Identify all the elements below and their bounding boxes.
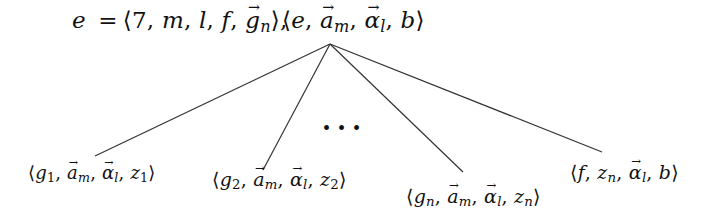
var-g: g xyxy=(35,162,47,183)
var-e: e xyxy=(291,7,305,33)
subscript-2: 2 xyxy=(232,177,241,192)
tree-diagram: e =⟨7, m, l, f, gn⟩, ⟨e, am, αl, b⟩ ... … xyxy=(0,0,702,219)
comma: , xyxy=(585,161,591,183)
var-m: m xyxy=(162,7,184,33)
vector-alpha: α xyxy=(629,163,642,182)
vector-alpha: α xyxy=(290,170,303,189)
comma: , xyxy=(386,7,394,33)
comma: , xyxy=(646,161,652,183)
child-node-n: ⟨gn, am, αl, zn⟩ xyxy=(406,187,541,206)
child-node-1: ⟨g1, am, αl, z1⟩ xyxy=(28,164,156,182)
var-z: z xyxy=(514,185,524,207)
root-node: ⟨e, am, αl, b⟩ xyxy=(282,9,425,32)
equals-sign: = xyxy=(98,7,117,33)
comma: , xyxy=(472,185,478,207)
comma: , xyxy=(241,168,247,190)
comma: , xyxy=(278,168,284,190)
const-7: 7 xyxy=(132,7,147,33)
edge-root-to-child-2 xyxy=(263,44,330,170)
comma: , xyxy=(349,7,357,33)
subscript-n: n xyxy=(260,17,271,36)
langle: ⟨ xyxy=(123,7,132,33)
comma: , xyxy=(206,7,214,33)
vector-a: a xyxy=(320,9,334,32)
rangle: ⟩ xyxy=(416,7,425,33)
vector-a: a xyxy=(447,187,459,206)
comma: , xyxy=(55,162,61,183)
subscript-m: m xyxy=(78,170,90,185)
subscript-m: m xyxy=(265,177,278,192)
comma: , xyxy=(308,168,314,190)
var-f: f xyxy=(222,7,231,33)
comma: , xyxy=(305,7,313,33)
comma: , xyxy=(616,161,622,183)
edge-root-to-child-1 xyxy=(95,44,330,156)
vector-a: a xyxy=(67,164,78,182)
vector-a: a xyxy=(253,170,265,189)
comma: , xyxy=(90,162,96,183)
var-z: z xyxy=(320,168,330,190)
child-node-f: ⟨f, zn, αl, b⟩ xyxy=(570,163,679,182)
var-z: z xyxy=(130,162,140,183)
subscript-1: 1 xyxy=(47,170,55,185)
var-b: b xyxy=(401,7,416,33)
child-node-2: ⟨g2, am, αl, z2⟩ xyxy=(212,170,347,189)
subscript-n: n xyxy=(524,194,533,209)
edge-root-to-child-f xyxy=(330,44,602,152)
comma: , xyxy=(119,162,125,183)
comma: , xyxy=(502,185,508,207)
vector-alpha: α xyxy=(484,187,497,206)
subscript-m: m xyxy=(334,17,349,36)
equation-e-definition: e =⟨7, m, l, f, gn⟩, xyxy=(72,9,287,32)
subscript-n: n xyxy=(426,194,435,209)
langle: ⟨ xyxy=(570,161,578,183)
langle: ⟨ xyxy=(282,7,291,33)
subscript-m: m xyxy=(459,194,472,209)
comma: , xyxy=(435,185,441,207)
ellipsis: ... xyxy=(322,106,367,136)
vector-g: g xyxy=(245,9,260,32)
var-g: g xyxy=(414,185,426,207)
var-g: g xyxy=(220,168,232,190)
var-b: b xyxy=(659,161,671,183)
rangle: ⟩ xyxy=(339,168,347,190)
subscript-2: 2 xyxy=(330,177,339,192)
var-e: e xyxy=(72,7,86,33)
rangle: ⟩ xyxy=(148,162,155,183)
vector-alpha: α xyxy=(364,9,380,32)
langle: ⟨ xyxy=(406,185,414,207)
vector-alpha: α xyxy=(102,164,114,182)
comma: , xyxy=(184,7,192,33)
comma: , xyxy=(230,7,238,33)
var-f: f xyxy=(578,161,585,183)
rangle: ⟩ xyxy=(533,185,541,207)
rangle: ⟩ xyxy=(271,7,280,33)
comma: , xyxy=(147,7,155,33)
rangle: ⟩ xyxy=(671,161,679,183)
var-z: z xyxy=(597,161,607,183)
langle: ⟨ xyxy=(212,168,220,190)
